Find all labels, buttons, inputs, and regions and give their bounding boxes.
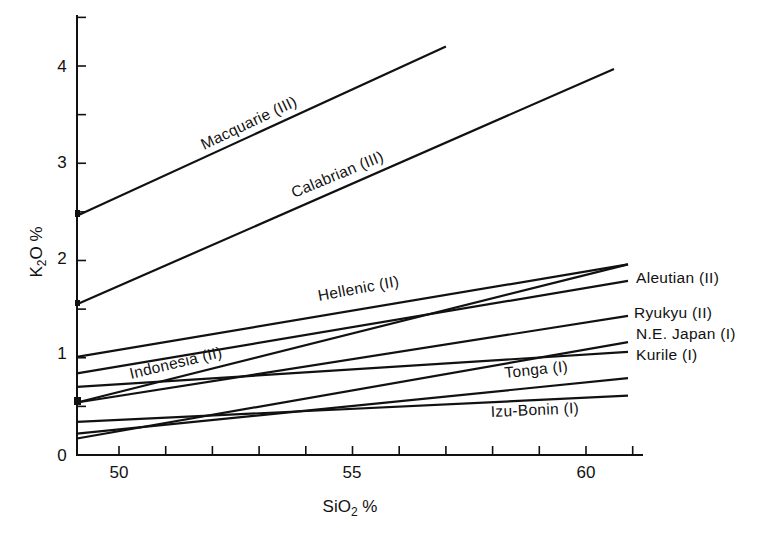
y-tick-labels: 0 1 2 3 4 (57, 57, 66, 465)
y-axis-title: K2O % (27, 226, 49, 277)
y-tick-label-3: 3 (57, 153, 66, 172)
x-tick-label-50: 50 (110, 463, 129, 482)
label-ryukyu: Ryukyu (II) (634, 304, 712, 321)
series-lines (77, 47, 628, 439)
y-tick-label-4: 4 (57, 57, 66, 76)
label-kurile: Kurile (I) (636, 346, 698, 363)
x-tick-labels: 50 55 60 (110, 463, 596, 482)
label-aleutian: Aleutian (II) (636, 269, 719, 286)
y-tick-label-1: 1 (57, 344, 66, 363)
marker-calabrian (75, 300, 80, 306)
label-izu-bonin: Izu-Bonin (I) (490, 399, 579, 420)
x-tick-label-60: 60 (577, 463, 596, 482)
x-axis-ticks (119, 446, 633, 455)
series-line-calabrian-iii (77, 69, 614, 304)
y-tick-label-0: 0 (57, 446, 66, 465)
x-tick-label-55: 55 (343, 463, 362, 482)
series-labels: Macquarie (III) Calabrian (III) Hellenic… (128, 92, 736, 420)
label-indonesia: Indonesia (II) (128, 343, 224, 382)
y-tick-label-2: 2 (57, 249, 66, 268)
marker-macquarie (75, 210, 80, 217)
x-axis-title: SiO2 % (323, 497, 378, 519)
label-macquarie: Macquarie (III) (198, 92, 300, 152)
label-tonga: Tonga (I) (504, 357, 569, 381)
series-line-macquarie-iii (77, 47, 446, 216)
series-line-hellenic-ii (77, 264, 628, 356)
marker-indonesia (74, 397, 81, 405)
label-hellenic: Hellenic (II) (316, 272, 400, 304)
k2o-vs-sio2-chart: 50 55 60 0 1 2 3 4 SiO2 % K2O % Macquari… (0, 0, 779, 538)
label-ne-japan: N.E. Japan (I) (636, 325, 736, 342)
